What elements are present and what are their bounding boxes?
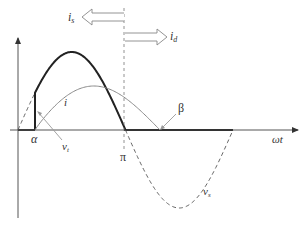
pi-label: π	[120, 150, 126, 164]
id-label: id	[170, 29, 178, 44]
current-label: i	[64, 96, 67, 108]
beta-label: β	[178, 101, 184, 115]
is-arrow-icon	[82, 9, 124, 25]
vt-label: vt	[62, 140, 70, 154]
alpha-label: α	[31, 132, 38, 146]
is-label: is	[68, 10, 74, 25]
waveform-diagram: is id i β α vt π ωt vs	[0, 0, 307, 228]
vs-label: vs	[203, 185, 211, 199]
current-curve	[35, 86, 160, 130]
x-axis-label: ωt	[272, 133, 284, 145]
vt-pointer	[38, 112, 62, 140]
id-arrow-icon	[125, 29, 167, 45]
vt-thick-curve	[35, 52, 126, 130]
